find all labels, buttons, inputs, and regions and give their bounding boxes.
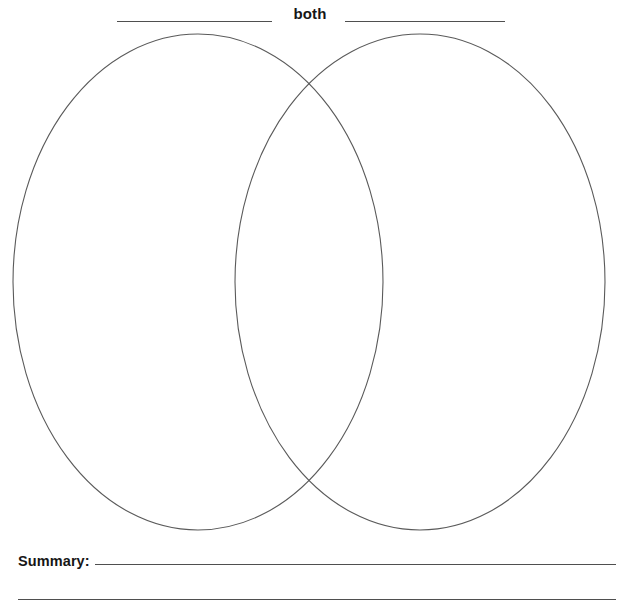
left-circle[interactable] <box>13 34 383 530</box>
right-circle-title-line[interactable] <box>345 21 505 22</box>
venn-diagram-worksheet: both Summary: <box>0 0 619 605</box>
summary-label: Summary: <box>18 552 90 570</box>
venn-diagram <box>0 28 619 540</box>
summary-write-line-2[interactable] <box>18 599 616 600</box>
right-circle[interactable] <box>235 34 605 530</box>
summary-write-line-1[interactable] <box>95 564 616 565</box>
both-label: both <box>281 5 339 23</box>
left-circle-title-line[interactable] <box>117 21 272 22</box>
